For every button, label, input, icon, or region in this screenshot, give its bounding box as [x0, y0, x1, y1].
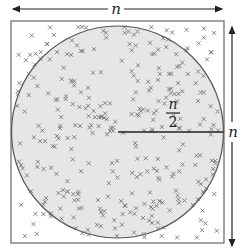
top-label: n	[111, 0, 121, 18]
side-label: n	[228, 123, 238, 141]
diagram-canvas: n n n 2	[0, 0, 243, 251]
radius-label-denominator: 2	[169, 114, 178, 130]
radius-label-numerator: n	[168, 96, 177, 112]
diagram: n n n 2	[0, 0, 243, 251]
